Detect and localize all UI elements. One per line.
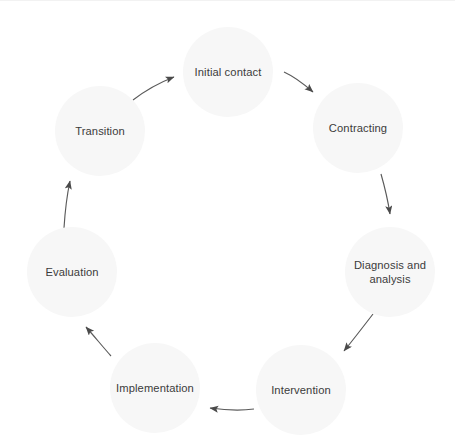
node-label-contracting: Contracting — [325, 121, 391, 135]
arrow-implementation-to-evaluation — [86, 327, 111, 356]
node-label-evaluation: Evaluation — [41, 265, 102, 279]
node-intervention[interactable]: Intervention — [256, 345, 346, 435]
arrow-contracting-to-diagnosis — [381, 174, 390, 214]
node-label-diagnosis-and-analysis: Diagnosis and analysis — [350, 258, 430, 286]
node-label-initial-contact: Initial contact — [191, 65, 266, 79]
arrow-evaluation-to-transition — [64, 181, 70, 228]
arrow-initial-contact-to-contracting — [284, 72, 313, 92]
node-label-implementation: Implementation — [112, 381, 198, 395]
node-label-transition: Transition — [71, 124, 129, 138]
node-transition[interactable]: Transition — [55, 86, 145, 176]
node-implementation[interactable]: Implementation — [110, 343, 200, 433]
arrow-diagnosis-to-intervention — [344, 314, 373, 351]
process-cycle-diagram: Initial contact Contracting Diagnosis an… — [0, 0, 455, 445]
node-evaluation[interactable]: Evaluation — [27, 227, 117, 317]
arrow-intervention-to-implementation — [210, 408, 254, 410]
node-diagnosis-and-analysis[interactable]: Diagnosis and analysis — [345, 227, 435, 317]
node-label-intervention: Intervention — [267, 383, 335, 397]
node-contracting[interactable]: Contracting — [313, 83, 403, 173]
node-initial-contact[interactable]: Initial contact — [183, 27, 273, 117]
arrow-transition-to-initial-contact — [133, 77, 174, 100]
